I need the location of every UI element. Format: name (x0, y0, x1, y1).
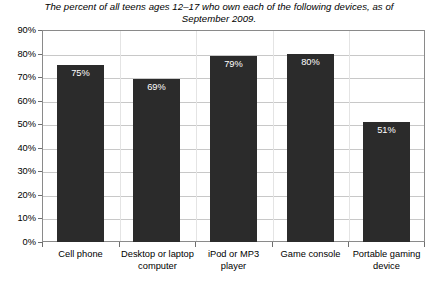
y-tick-label: 80% (0, 49, 36, 59)
gridline (43, 219, 424, 220)
x-category-label: Desktop or laptop computer (119, 249, 196, 272)
plot-area (42, 30, 425, 242)
x-tick-mark (195, 242, 196, 247)
category-separator (196, 31, 197, 241)
x-tick-mark (424, 242, 425, 247)
x-tick-mark (119, 242, 120, 247)
y-tick-label: 70% (0, 72, 36, 82)
x-axis-ticks (42, 242, 425, 247)
x-category-label: Cell phone (42, 249, 119, 261)
gridlines (43, 31, 424, 241)
gridline (43, 55, 424, 56)
x-category-label: iPod or MP3 player (195, 249, 272, 272)
x-tick-mark (42, 242, 43, 247)
gridline (43, 196, 424, 197)
bar-chart: The percent of all teens ages 12–17 who … (0, 0, 433, 287)
category-separator (349, 31, 350, 241)
y-axis: 0%10%20%30%40%50%60%70%80%90% (0, 30, 36, 242)
gridline (43, 125, 424, 126)
y-tick-label: 90% (0, 25, 36, 35)
gridline (43, 172, 424, 173)
gridline (43, 102, 424, 103)
y-tick-label: 0% (0, 237, 36, 247)
category-separator (120, 31, 121, 241)
y-tick-label: 10% (0, 213, 36, 223)
category-separator (273, 31, 274, 241)
y-tick-label: 60% (0, 96, 36, 106)
x-category-label: Portable gaming device (348, 249, 425, 272)
x-category-label: Game console (272, 249, 349, 261)
gridline (43, 78, 424, 79)
gridline (43, 149, 424, 150)
x-tick-mark (272, 242, 273, 247)
chart-title: The percent of all teens ages 12–17 who … (36, 1, 402, 25)
y-tick-label: 20% (0, 190, 36, 200)
y-tick-label: 40% (0, 143, 36, 153)
y-tick-label: 30% (0, 166, 36, 176)
y-tick-label: 50% (0, 119, 36, 129)
x-axis: Cell phoneDesktop or laptop computeriPod… (42, 249, 425, 283)
x-tick-mark (348, 242, 349, 247)
